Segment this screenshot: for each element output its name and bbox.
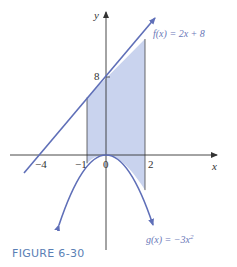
y-axis-label: y [94, 10, 99, 21]
figure-plot [0, 0, 237, 267]
g-label-exponent: 2 [190, 233, 194, 241]
x-tick-label-neg1: −1 [75, 159, 87, 170]
y-tick-label-8: 8 [94, 71, 100, 82]
g-label-text: g(x) = −3x [146, 234, 190, 245]
x-axis-label: x [212, 161, 217, 172]
x-tick-label-0: 0 [103, 159, 109, 170]
figure-caption: FIGURE 6-30 [12, 247, 85, 260]
x-tick-label-neg4: −4 [35, 159, 47, 170]
shaded-area-region [87, 39, 145, 190]
x-tick-label-2: 2 [148, 159, 154, 170]
f-function-label: f(x) = 2x + 8 [153, 29, 205, 39]
g-function-label: g(x) = −3x2 [146, 234, 194, 245]
